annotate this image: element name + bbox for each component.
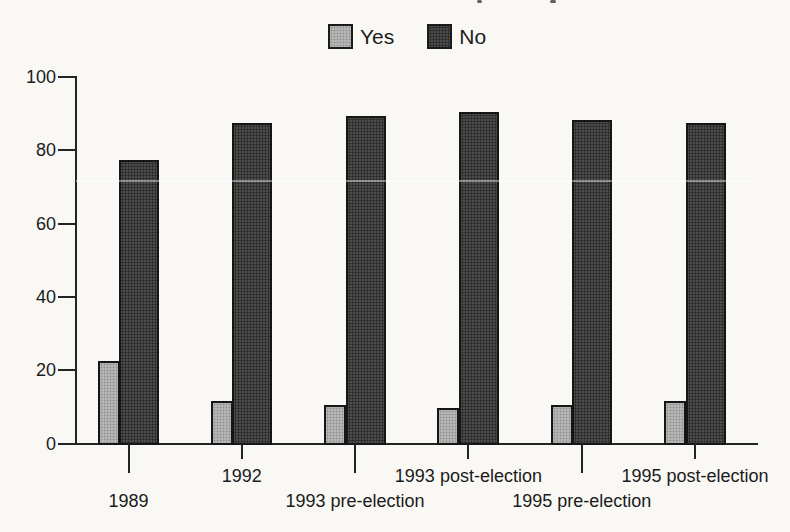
x-axis-category-label: 1989: [108, 491, 148, 511]
scan-artifact-line: [76, 180, 756, 182]
bar-no-1993-post-election: [459, 112, 499, 445]
bar-yes-1995-pre-election: [551, 405, 573, 445]
bar-yes-1993-pre-election: [324, 405, 346, 445]
y-axis-tick-label: 60: [0, 214, 56, 234]
x-axis-tick: [467, 444, 469, 459]
bar-yes-1992: [211, 401, 233, 445]
bar-no-1995-pre-election: [572, 120, 612, 445]
cropped-title-remnant: [477, 0, 482, 3]
legend-item-no: No: [427, 24, 486, 49]
x-axis-tick: [241, 444, 243, 459]
y-axis-tick-label: 100: [0, 67, 56, 87]
y-axis-tick: [58, 223, 75, 225]
x-axis-tick: [128, 444, 130, 473]
bar-no-1993-pre-election: [346, 116, 386, 445]
bar-no-1992: [232, 123, 272, 445]
legend-label-yes: Yes: [360, 24, 394, 49]
y-axis-tick-label: 20: [0, 360, 56, 380]
bar-yes-1989: [98, 361, 120, 445]
bar-yes-1993-post-election: [437, 408, 459, 445]
legend-swatch-yes: [328, 24, 353, 49]
y-axis-tick: [58, 296, 75, 298]
y-axis-tick: [58, 369, 75, 371]
y-axis-tick: [58, 76, 75, 78]
x-axis-tick: [581, 444, 583, 473]
x-axis-line: [75, 443, 758, 446]
x-axis-category-label: 1993 pre-election: [286, 491, 425, 511]
bar-yes-1995-post-election: [664, 401, 686, 445]
legend-swatch-no: [427, 24, 452, 49]
y-axis-tick-label: 40: [0, 287, 56, 307]
x-axis-category-label: 1993 post-election: [395, 466, 542, 486]
y-axis-tick: [58, 149, 75, 151]
x-axis-category-label: 1992: [222, 466, 262, 486]
x-axis-category-label: 1995 post-election: [621, 466, 768, 486]
legend-label-no: No: [459, 24, 486, 49]
y-axis-line: [75, 76, 78, 445]
x-axis-tick: [694, 444, 696, 459]
legend-item-yes: Yes: [328, 24, 394, 49]
bar-no-1989: [119, 160, 159, 445]
cropped-title-remnant: [550, 0, 556, 3]
y-axis-tick: [58, 443, 75, 445]
bar-no-1995-post-election: [686, 123, 726, 445]
x-axis-tick: [354, 444, 356, 473]
x-axis-category-label: 1995 pre-election: [512, 491, 651, 511]
chart-legend: YesNo: [328, 24, 486, 49]
y-axis-tick-label: 0: [0, 434, 56, 454]
bar-chart-figure: YesNo 020406080100198919921993 pre-elect…: [0, 0, 790, 532]
y-axis-tick-label: 80: [0, 140, 56, 160]
